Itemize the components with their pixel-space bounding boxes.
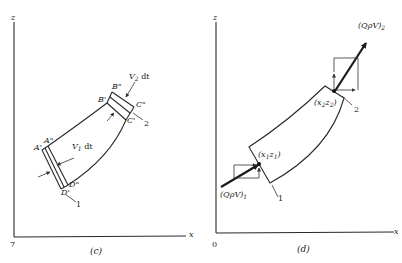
z-axis-label-c: z xyxy=(11,14,15,22)
point-2-label: (x2z2) xyxy=(314,99,337,108)
momentum-out-arrow xyxy=(335,43,366,91)
v2dt-arrow-out xyxy=(107,113,114,121)
section1-label-c: 1 xyxy=(76,201,81,209)
momentum-in-label: (QρV)1 xyxy=(220,191,247,200)
panel-d xyxy=(216,22,394,233)
label-b-prime: B' xyxy=(98,96,106,104)
panel-c xyxy=(14,22,186,237)
stream-tube-c xyxy=(42,92,134,189)
v2-dt-label: V2 dt xyxy=(129,73,150,82)
point-1-label: (x1z1) xyxy=(258,151,281,160)
momentum-out-label: (QρV)2 xyxy=(358,22,385,31)
x-axis-c xyxy=(14,236,186,237)
x-axis-label-c: x xyxy=(189,231,194,239)
v1-dt-label: V1 dt xyxy=(72,143,93,152)
z-axis-label-d: z xyxy=(213,14,217,22)
v2dt-arrow-in xyxy=(126,82,135,97)
momentum-in-arrow xyxy=(221,165,258,187)
x-axis-d xyxy=(216,232,394,233)
section2-label-c: 2 xyxy=(144,120,149,128)
x-axis-label-d: x xyxy=(394,228,399,236)
caption-c: (c) xyxy=(90,247,102,256)
label-a-dprime: A" xyxy=(44,137,53,145)
label-d-prime: D' xyxy=(61,189,70,197)
label-c-prime: C' xyxy=(127,117,135,125)
diagram-canvas xyxy=(0,0,402,263)
v1dt-arrow-in xyxy=(57,158,74,165)
label-a-prime: A' xyxy=(34,144,42,152)
origin-label-d: 0 xyxy=(212,241,217,249)
origin-label-c: 7 xyxy=(10,241,15,249)
caption-d: (d) xyxy=(297,245,310,254)
label-c-dprime: C" xyxy=(136,101,146,109)
section2-label-d: 2 xyxy=(354,106,359,114)
label-b-dprime: B" xyxy=(112,83,122,91)
section1-label-d: 1 xyxy=(278,195,283,203)
point-1-dot xyxy=(257,162,261,166)
v1dt-arrow-out xyxy=(38,172,50,177)
label-d-dprime: D" xyxy=(69,181,79,189)
